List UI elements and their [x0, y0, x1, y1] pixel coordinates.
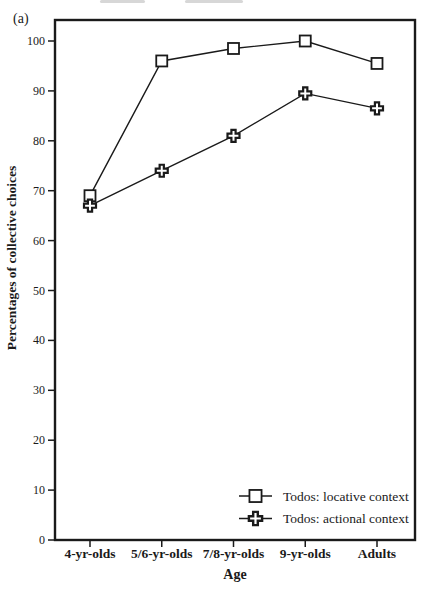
square-marker-icon — [300, 36, 311, 47]
y-tick-label: 60 — [33, 234, 45, 248]
scan-artifact — [100, 0, 145, 3]
legend-label: Todos: locative context — [283, 489, 409, 504]
series-line — [90, 93, 377, 205]
figure: (a) 01020304050607080901004-yr-olds5/6-y… — [0, 0, 429, 593]
x-category-label: 7/8-yr-olds — [203, 546, 265, 561]
y-axis-title: Percentages of collective choices — [4, 166, 19, 351]
y-tick-label: 10 — [33, 483, 45, 497]
figure-panel-label: (a) — [13, 11, 29, 27]
y-tick-label: 100 — [27, 34, 45, 48]
square-marker-icon — [228, 43, 239, 54]
y-tick-label: 0 — [39, 533, 45, 547]
plus-marker-icon — [299, 87, 311, 99]
x-category-label: 5/6-yr-olds — [131, 546, 193, 561]
square-marker-icon — [156, 55, 167, 66]
scan-artifact — [185, 0, 243, 3]
x-category-label: Adults — [358, 546, 396, 561]
plot-border — [55, 20, 415, 540]
y-tick-label: 20 — [33, 433, 45, 447]
plus-marker-icon — [228, 130, 240, 142]
y-tick-label: 70 — [33, 184, 45, 198]
line-chart: 01020304050607080901004-yr-olds5/6-yr-ol… — [0, 0, 429, 593]
y-tick-label: 40 — [33, 333, 45, 347]
y-tick-label: 50 — [33, 284, 45, 298]
y-tick-label: 80 — [33, 134, 45, 148]
square-marker-icon — [249, 490, 261, 502]
y-tick-label: 30 — [33, 383, 45, 397]
y-tick-label: 90 — [33, 84, 45, 98]
series-line — [90, 41, 377, 196]
plus-marker-icon — [371, 102, 383, 114]
plus-marker-icon — [249, 512, 262, 525]
x-category-label: 4-yr-olds — [64, 546, 115, 561]
square-marker-icon — [372, 58, 383, 69]
x-category-label: 9-yr-olds — [280, 546, 331, 561]
plus-marker-icon — [156, 165, 168, 177]
legend-label: Todos: actional context — [283, 511, 409, 526]
x-axis-title: Age — [223, 567, 246, 582]
